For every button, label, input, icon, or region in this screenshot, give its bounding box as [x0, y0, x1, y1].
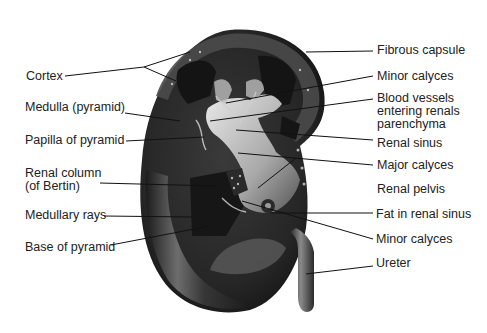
- label-of-bertin: (of Bertin): [25, 180, 80, 193]
- label-ureter: Ureter: [376, 257, 411, 270]
- label-cortex: Cortex: [26, 70, 63, 83]
- label-medulla-pyramid: Medulla (pyramid): [25, 101, 125, 114]
- label-base-of-pyramid: Base of pyramid: [25, 241, 115, 254]
- kidney-diagram: Cortex Medulla (pyramid) Papilla of pyra…: [0, 0, 487, 333]
- label-papilla-of-pyramid: Papilla of pyramid: [25, 134, 124, 147]
- label-minor-calyces-bottom: Minor calyces: [376, 233, 452, 246]
- label-major-calyces: Major calyces: [377, 159, 453, 172]
- label-renal-sinus: Renal sinus: [377, 137, 442, 150]
- label-blood-vessels-line3: parenchyma: [377, 118, 446, 131]
- label-fibrous-capsule: Fibrous capsule: [377, 44, 465, 57]
- label-minor-calyces-top: Minor calyces: [377, 70, 453, 83]
- label-fat-in-renal-sinus: Fat in renal sinus: [376, 208, 471, 221]
- label-medullary-rays: Medullary rays: [25, 209, 106, 222]
- label-renal-pelvis: Renal pelvis: [377, 183, 445, 196]
